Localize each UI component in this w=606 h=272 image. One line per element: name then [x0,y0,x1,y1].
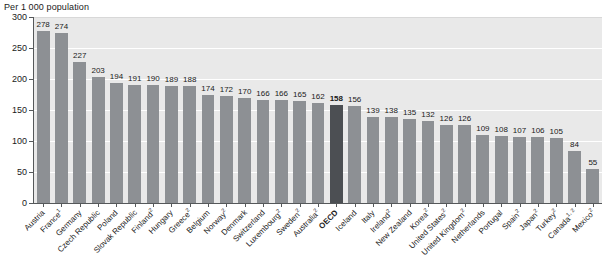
bar[interactable] [238,98,251,203]
x-axis-tick [428,204,429,207]
bar[interactable] [531,137,544,203]
bar[interactable] [73,62,86,203]
bar[interactable] [348,106,361,203]
bar[interactable] [220,96,233,203]
bar-value-label: 165 [293,91,306,99]
bar-slot: 166 [257,17,270,203]
bar-value-label: 191 [128,75,141,83]
x-axis-tick [355,204,356,207]
chart-axis-title: Per 1 000 population [4,2,89,12]
x-axis-tick [153,204,154,207]
x-axis-tick [465,204,466,207]
x-axis-tick [43,204,44,207]
bar-slot: 189 [165,17,178,203]
x-axis-tick [410,204,411,207]
x-axis-tick [263,204,264,207]
bar[interactable] [257,100,270,203]
bar[interactable] [147,85,160,203]
bar[interactable] [202,95,215,203]
bar[interactable] [128,85,141,203]
x-axis-tick [281,204,282,207]
bar[interactable] [586,169,599,203]
bar-slot: 158 [330,17,343,203]
bar[interactable] [403,119,416,203]
x-axis-tick [336,204,337,207]
bar[interactable] [568,151,581,203]
x-axis-tick [483,204,484,207]
x-axis-tick [226,204,227,207]
x-axis-tick [501,204,502,207]
bar[interactable] [513,137,526,203]
bar[interactable] [422,121,435,203]
bar-slot: 174 [202,17,215,203]
bar-slot: 156 [348,17,361,203]
x-axis-tick [171,204,172,207]
x-axis-tick [373,204,374,207]
bar-chart: Per 1 000 population 050100150200250300 … [0,0,606,272]
bar-slot: 132 [422,17,435,203]
bar-slot: 188 [183,17,196,203]
bar-value-label: 126 [458,115,471,123]
bar-value-label: 158 [330,95,343,103]
bar-slot: 278 [37,17,50,203]
bar-value-label: 84 [570,141,579,149]
bar[interactable] [385,117,398,203]
bar-slot: 126 [440,17,453,203]
bar-value-label: 162 [311,93,324,101]
bar-value-label: 174 [201,85,214,93]
bar-slot: 84 [568,17,581,203]
bar-value-label: 126 [440,115,453,123]
bar-slot: 227 [73,17,86,203]
bar-slot: 170 [238,17,251,203]
bar-slot: 105 [550,17,563,203]
y-axis-tick-label: 50 [0,168,27,177]
bar[interactable] [37,31,50,203]
x-axis-tick [208,204,209,207]
bar[interactable] [312,103,325,203]
bar[interactable] [293,101,306,203]
bar-value-label: 166 [256,90,269,98]
bar-value-label: 172 [220,86,233,94]
bar-slot: 55 [586,17,599,203]
x-axis-tick [446,204,447,207]
bar[interactable] [55,33,68,203]
x-axis-tick [245,204,246,207]
bar[interactable] [367,117,380,203]
x-axis-tick [61,204,62,207]
bar-slot: 108 [495,17,508,203]
bar[interactable] [440,125,453,203]
bar-value-label: 138 [385,107,398,115]
bar-slot: 191 [128,17,141,203]
bar[interactable] [183,86,196,203]
bar[interactable] [550,138,563,203]
bar[interactable] [458,125,471,203]
bar-slot: 138 [385,17,398,203]
bar-value-label: 227 [73,52,86,60]
bar-highlight[interactable] [330,105,343,203]
bar-slot: 107 [513,17,526,203]
bar[interactable] [92,77,105,203]
bar[interactable] [165,86,178,203]
bar-slot: 166 [275,17,288,203]
bar[interactable] [110,83,123,203]
x-axis-tick [593,204,594,207]
x-axis-tick [98,204,99,207]
bar-slot: 126 [458,17,471,203]
bar-value-label: 203 [91,67,104,75]
bar[interactable] [476,135,489,203]
bar[interactable] [275,100,288,203]
y-axis-tick-label: 250 [0,44,27,53]
bar-value-label: 189 [165,76,178,84]
y-axis-tick-label: 200 [0,75,27,84]
y-axis-tick-label: 0 [0,199,27,208]
bar-slot: 203 [92,17,105,203]
x-axis-tick [556,204,557,207]
bar-slot: 135 [403,17,416,203]
bar-slot: 109 [476,17,489,203]
bars-layer: 2782742272031941911901891881741721701661… [34,17,602,203]
bar[interactable] [495,136,508,203]
bar-value-label: 132 [421,111,434,119]
bar-slot: 172 [220,17,233,203]
x-axis-tick [190,204,191,207]
x-axis-tick [318,204,319,207]
